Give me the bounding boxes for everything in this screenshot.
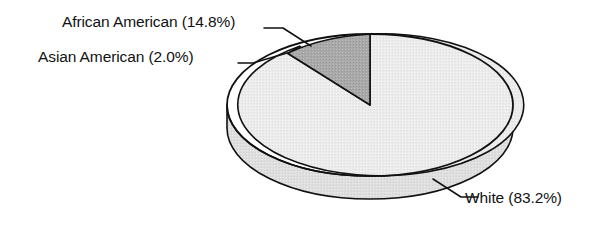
slice-label-african-american: African American (14.8%) bbox=[62, 13, 235, 31]
leader-line-african-american bbox=[264, 28, 311, 46]
slice-label-white: White (83.2%) bbox=[465, 189, 562, 207]
pie-chart-figure: African American (14.8%) Asian American … bbox=[0, 0, 612, 229]
slice-label-asian-american: Asian American (2.0%) bbox=[38, 48, 194, 66]
pie-top-face bbox=[227, 34, 524, 176]
